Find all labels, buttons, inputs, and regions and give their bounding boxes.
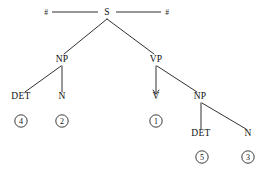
node-vp: VP [150, 54, 163, 64]
node-v: V [152, 91, 159, 101]
index-marker-1: 1 [150, 115, 162, 127]
right-boundary-symbol: # [165, 8, 169, 17]
index-label-1: 1 [154, 117, 158, 126]
index-marker-3: 3 [242, 151, 254, 163]
edge-np-right-to-n [202, 103, 246, 129]
edge-s-to-np-left [64, 19, 107, 54]
node-det-right: DET [191, 128, 210, 138]
tree-canvas: # # S NP VP DET N V NP DET N 4 2 1 5 3 [0, 0, 264, 172]
node-np-left: NP [56, 54, 69, 64]
edge-s-to-vp [107, 19, 154, 54]
node-det-left: DET [11, 91, 30, 101]
edge-np-left-to-det [25, 66, 61, 92]
index-label-4: 4 [19, 117, 23, 126]
index-label-5: 5 [200, 153, 204, 162]
index-marker-2: 2 [56, 115, 68, 127]
node-n-left: N [58, 91, 65, 101]
left-boundary-symbol: # [44, 8, 48, 17]
syntax-tree-figure: # # S NP VP DET N V NP DET N 4 2 1 5 3 [0, 0, 264, 172]
edge-vp-to-np-right [157, 66, 197, 92]
index-label-2: 2 [60, 117, 64, 126]
node-np-right: NP [194, 91, 207, 101]
index-marker-4: 4 [15, 115, 27, 127]
node-n-right: N [244, 128, 251, 138]
node-s: S [104, 7, 110, 17]
index-marker-5: 5 [196, 151, 208, 163]
index-label-3: 3 [246, 153, 250, 162]
